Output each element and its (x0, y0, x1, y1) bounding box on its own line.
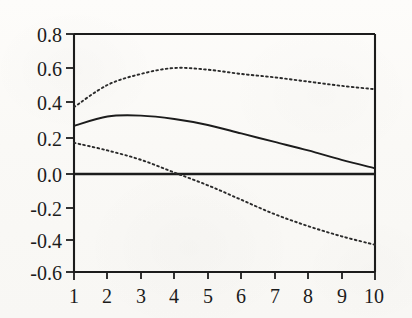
y-label-5: -0.2 (30, 198, 62, 220)
x-label-0: 1 (69, 285, 79, 307)
series-upper-confidence-band (74, 68, 375, 107)
x-label-7: 8 (303, 285, 313, 307)
y-label-3: 0.2 (37, 128, 62, 150)
x-label-4: 5 (203, 285, 213, 307)
x-label-8: 9 (337, 285, 347, 307)
x-label-5: 6 (236, 285, 246, 307)
plot-frame (74, 34, 375, 272)
y-label-2: 0.4 (37, 92, 62, 114)
y-axis-labels: 0.8 0.6 0.4 0.2 0.0 -0.2 -0.4 -0.6 (30, 24, 62, 284)
chart-page: 0.8 0.6 0.4 0.2 0.0 -0.2 -0.4 -0.6 1 2 3… (0, 0, 412, 318)
y-axis-ticks (66, 34, 74, 272)
y-label-4: 0.0 (37, 164, 62, 186)
y-label-7: -0.6 (30, 262, 62, 284)
series-lower-confidence-band (74, 143, 375, 245)
x-label-6: 7 (270, 285, 280, 307)
series-layer (74, 68, 375, 245)
x-axis-ticks (74, 272, 375, 280)
impulse-response-chart: 0.8 0.6 0.4 0.2 0.0 -0.2 -0.4 -0.6 1 2 3… (0, 0, 412, 318)
x-label-3: 4 (169, 285, 179, 307)
x-axis-labels: 1 2 3 4 5 6 7 8 9 10 (69, 285, 384, 307)
y-label-6: -0.4 (30, 230, 62, 252)
y-label-0: 0.8 (37, 24, 62, 46)
x-label-9: 10 (364, 285, 384, 307)
x-label-2: 3 (136, 285, 146, 307)
series-point-estimate (74, 115, 375, 168)
x-label-1: 2 (102, 285, 112, 307)
y-label-1: 0.6 (37, 58, 62, 80)
